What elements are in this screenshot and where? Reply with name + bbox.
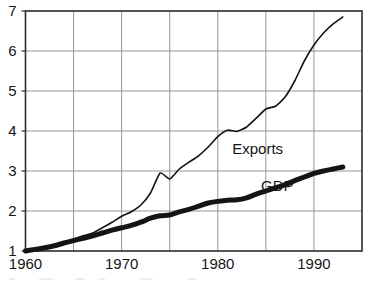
series-line-gdp	[26, 167, 343, 251]
y-axis-tick-label: 7	[0, 3, 17, 18]
x-axis-tick-label: 1970	[101, 256, 143, 271]
series-line-exports	[26, 17, 343, 251]
y-axis-tick-label: 5	[0, 83, 17, 98]
data-series	[26, 17, 343, 251]
x-axis-tick-label: 1960	[5, 256, 47, 271]
y-axis-tick-label: 3	[0, 163, 17, 178]
x-axis-tick-label: 1980	[197, 256, 239, 271]
y-axis-tick-label: 6	[0, 43, 17, 58]
chart-plot-area	[0, 0, 377, 287]
line-chart: 1234567 1960197019801990 Exports GDP	[0, 0, 377, 287]
y-axis-tick-label: 2	[0, 203, 17, 218]
series-label-exports: Exports	[232, 141, 283, 156]
series-label-gdp: GDP	[261, 178, 294, 193]
page-scan-artifact	[6, 276, 216, 282]
x-axis-tick-label: 1990	[293, 256, 335, 271]
y-axis-tick-label: 4	[0, 123, 17, 138]
grid-lines	[26, 11, 363, 251]
